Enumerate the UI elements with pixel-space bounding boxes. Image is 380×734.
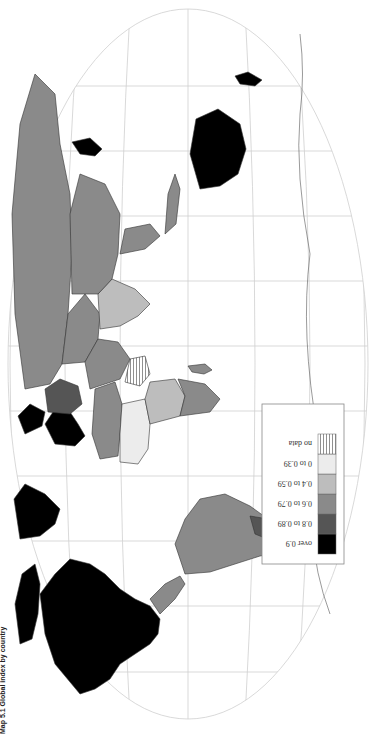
region-china [70,174,120,294]
region-madagascar [188,364,212,374]
region-indonesia [165,174,180,234]
region-north-africa [92,382,122,459]
legend-swatch-over-0-9 [318,534,336,554]
legend-label-2: 0.6 to 0.79 [278,499,312,508]
region-central-africa [145,379,185,424]
region-sahel [120,399,150,464]
legend-swatch-0-8 [318,514,336,534]
region-south-asia [98,279,150,329]
legend-label-0: over 0.9 [286,539,312,548]
region-canada-islands [15,564,40,644]
region-greenland [14,484,60,539]
legend-label-1: 0.8 to 0.89 [278,519,312,528]
region-europe-west [45,409,85,446]
legend-swatch-no-data [318,434,336,454]
page: over 0.9 0.8 to 0.89 0.6 to 0.79 0.4 to … [0,0,380,734]
legend-label-5: no data [288,439,312,448]
region-europe-east [45,379,82,414]
legend-swatch-0-0 [318,454,336,474]
region-north-america [40,559,160,694]
region-southeast-asia [120,224,160,254]
legend-swatches [318,434,336,554]
legend-swatch-0-4 [318,474,336,494]
region-new-zealand [235,72,262,86]
legend: over 0.9 0.8 to 0.89 0.6 to 0.79 0.4 to … [262,404,344,564]
legend-label-3: 0.4 to 0.59 [278,479,312,488]
figure-caption: Map 5.1 Global index by country [0,627,6,734]
world-map: over 0.9 0.8 to 0.89 0.6 to 0.79 0.4 to … [0,0,380,734]
region-australia [190,109,246,189]
region-scandinavia [18,404,45,434]
region-central-america [150,576,185,614]
legend-label-4: 0 to 0.39 [284,459,312,468]
region-japan [72,138,102,156]
region-russia [12,74,72,389]
legend-swatch-0-6 [318,494,336,514]
